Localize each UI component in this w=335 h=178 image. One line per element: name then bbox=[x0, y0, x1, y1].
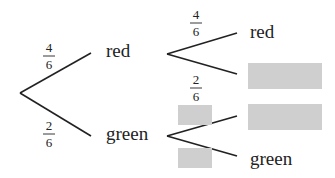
branch-line-red-red bbox=[167, 33, 237, 54]
probability-tree-diagram: 4 6 2 6 red green 4 6 2 6 red bbox=[0, 0, 335, 178]
tree-canvas: 4 6 2 6 red green 4 6 2 6 red bbox=[0, 0, 335, 178]
svg-text:2: 2 bbox=[46, 118, 53, 133]
hidden-outcome-box-red-second bbox=[248, 63, 322, 89]
svg-text:4: 4 bbox=[46, 40, 53, 55]
svg-text:6: 6 bbox=[46, 57, 53, 72]
svg-text:4: 4 bbox=[193, 7, 200, 22]
outcome-green: green bbox=[106, 123, 149, 144]
svg-text:6: 6 bbox=[46, 135, 53, 150]
svg-text:6: 6 bbox=[193, 89, 200, 104]
outcome-green-green: green bbox=[250, 148, 293, 169]
branch-line-root-green bbox=[20, 93, 91, 136]
prob-label-root-green: 2 6 bbox=[43, 118, 55, 150]
outcome-red-red: red bbox=[250, 21, 275, 42]
prob-label-red-hidden: 2 6 bbox=[190, 72, 202, 104]
svg-text:2: 2 bbox=[193, 72, 200, 87]
prob-label-root-red: 4 6 bbox=[43, 40, 55, 72]
branch-line-root-red bbox=[20, 53, 91, 93]
hidden-prob-box-green-lower bbox=[178, 148, 212, 168]
branch-line-red-hidden bbox=[167, 54, 237, 74]
svg-text:6: 6 bbox=[193, 24, 200, 39]
outcome-red: red bbox=[106, 40, 131, 61]
prob-label-red-red: 4 6 bbox=[190, 7, 202, 39]
hidden-prob-box-green-upper bbox=[178, 105, 212, 125]
hidden-outcome-box-green-first bbox=[248, 104, 322, 130]
